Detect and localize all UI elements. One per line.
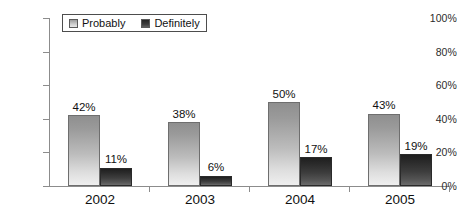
bar-definitely-2005 <box>400 154 432 186</box>
y-tick-60 <box>43 85 49 86</box>
x-axis-label-2004: 2004 <box>259 192 341 207</box>
legend-swatch-probably-icon <box>69 19 78 28</box>
bar-definitely-2002 <box>100 168 132 187</box>
x-tick-sep-3 <box>349 186 350 192</box>
x-tick-sep-4 <box>449 186 450 192</box>
bar-value-definitely-2005: 19% <box>400 140 432 152</box>
bar-probably-2004 <box>268 102 300 186</box>
y-tick-20 <box>43 152 49 153</box>
bar-value-definitely-2003: 6% <box>200 161 232 173</box>
bar-value-definitely-2004: 17% <box>300 143 332 155</box>
y-axis-label-40: 40% <box>411 113 457 125</box>
bar-value-probably-2005: 43% <box>368 99 400 111</box>
x-tick-sep-1 <box>149 186 150 192</box>
y-tick-0 <box>43 186 49 187</box>
chart-legend: Probably Definitely <box>62 14 207 32</box>
y-tick-100 <box>43 18 49 19</box>
x-axis-label-2003: 2003 <box>159 192 241 207</box>
bar-probably-2002 <box>68 115 100 186</box>
y-tick-40 <box>43 119 49 120</box>
legend-label-probably: Probably <box>82 18 125 29</box>
x-axis-label-2005: 2005 <box>359 192 441 207</box>
y-axis-label-60: 60% <box>411 79 457 91</box>
x-axis-label-2002: 2002 <box>59 192 141 207</box>
legend-label-definitely: Definitely <box>154 18 199 29</box>
bar-value-definitely-2002: 11% <box>100 153 132 165</box>
x-tick-sep-2 <box>249 186 250 192</box>
bar-value-probably-2003: 38% <box>168 108 200 120</box>
y-axis-label-80: 80% <box>411 46 457 58</box>
y-axis-label-100: 100% <box>411 12 457 24</box>
bar-definitely-2004 <box>300 157 332 186</box>
y-axis-line <box>49 18 50 186</box>
bar-probably-2003 <box>168 122 200 186</box>
y-tick-80 <box>43 52 49 53</box>
bar-definitely-2003 <box>200 176 232 186</box>
bar-value-probably-2002: 42% <box>68 101 100 113</box>
legend-item-definitely[interactable]: Definitely <box>141 18 199 29</box>
bar-chart: 100% 80% 60% 40% 20% 0% 42% 11% 38% 6% 5… <box>0 0 457 224</box>
legend-item-probably[interactable]: Probably <box>69 18 125 29</box>
legend-swatch-definitely-icon <box>141 19 150 28</box>
bar-probably-2005 <box>368 114 400 186</box>
bar-value-probably-2004: 50% <box>268 88 300 100</box>
